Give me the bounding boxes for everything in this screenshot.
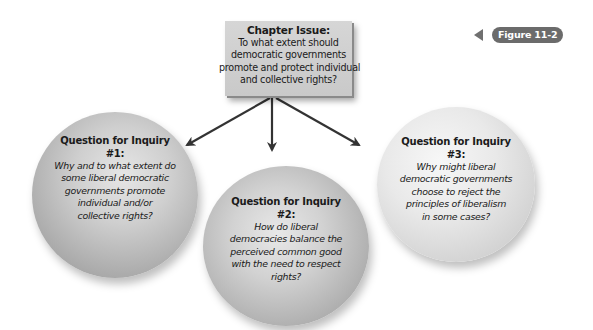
question-title-line: Question for Inquiry — [209, 196, 363, 209]
question-line: principles of liberalism — [383, 198, 529, 210]
question-line: in some cases? — [383, 211, 529, 223]
question-line: governments promote — [40, 185, 190, 197]
question-line: collective rights? — [40, 210, 190, 222]
question-number: #2: — [209, 209, 363, 222]
question-text: Why might liberal democratic governments… — [383, 161, 529, 223]
inquiry-question-1: Question for Inquiry #1: Why and to what… — [32, 112, 198, 278]
question-line: rights? — [209, 271, 363, 283]
question-line: individual and/or — [40, 197, 190, 209]
question-text: Why and to what extent do some liberal d… — [40, 160, 190, 222]
question-line: How do liberal — [209, 221, 363, 233]
inquiry-question-3: Question for Inquiry #3: Why might liber… — [377, 107, 535, 262]
question-line: democracies balance the — [209, 233, 363, 245]
question-title: Question for Inquiry #2: — [209, 196, 363, 221]
question-line: perceived common good — [209, 246, 363, 258]
question-title-line: Question for Inquiry — [40, 135, 190, 148]
question-line: Why and to what extent do — [40, 160, 190, 172]
question-line: democratic governments — [383, 173, 529, 185]
chapter-issue-text: To what extent should democratic governm… — [225, 37, 352, 87]
issue-line: democratic governments — [225, 49, 352, 61]
figure-badge: Figure 11-2 — [492, 27, 563, 43]
question-line: Why might liberal — [383, 161, 529, 173]
issue-line: To what extent should — [225, 37, 352, 49]
arrow-to-q1 — [187, 98, 270, 145]
question-line: with the need to respect — [209, 258, 363, 270]
issue-line: and collective rights? — [225, 74, 352, 86]
issue-line: promote and protect individual — [219, 62, 358, 74]
question-title-line: Question for Inquiry — [383, 136, 529, 149]
question-title: Question for Inquiry #1: — [40, 135, 190, 160]
question-line: choose to reject the — [383, 186, 529, 198]
inquiry-question-2: Question for Inquiry #2: How do liberal … — [203, 166, 369, 326]
question-line: some liberal democratic — [40, 172, 190, 184]
question-number: #3: — [383, 149, 529, 162]
question-number: #1: — [40, 148, 190, 161]
figure-label: Figure 11-2 — [474, 27, 563, 43]
chapter-issue-title: Chapter Issue: — [225, 24, 352, 37]
question-title: Question for Inquiry #3: — [383, 136, 529, 161]
question-text: How do liberal democracies balance the p… — [209, 221, 363, 283]
chapter-issue-box: Chapter Issue: To what extent should dem… — [225, 21, 352, 96]
arrow-to-q3 — [276, 98, 359, 145]
triangle-left-icon — [474, 29, 483, 41]
